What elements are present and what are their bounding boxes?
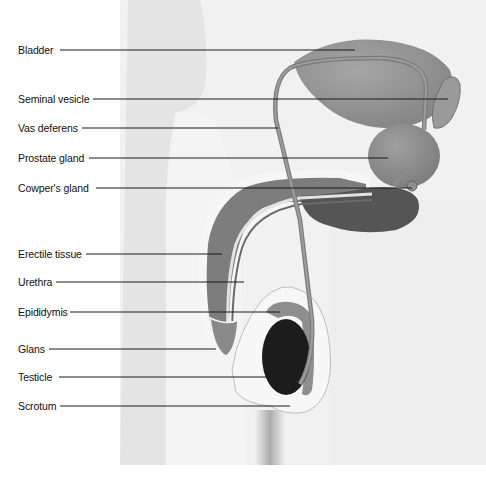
label-urethra: Urethra bbox=[18, 276, 52, 288]
anatomy-diagram: Bladder Seminal vesicle Vas deferens Pro… bbox=[0, 0, 486, 497]
label-glans: Glans bbox=[18, 343, 45, 355]
label-vas-deferens: Vas deferens bbox=[18, 122, 78, 134]
label-scrotum: Scrotum bbox=[18, 400, 56, 412]
label-seminal-vesicle: Seminal vesicle bbox=[18, 93, 89, 105]
label-prostate-gland: Prostate gland bbox=[18, 152, 84, 164]
prostate-shape bbox=[368, 124, 440, 188]
label-bladder: Bladder bbox=[18, 44, 54, 56]
label-epididymis: Epididymis bbox=[18, 306, 68, 318]
label-testicle: Testicle bbox=[18, 371, 52, 383]
label-cowpers-gland: Cowper's gland bbox=[18, 182, 89, 194]
label-erectile-tissue: Erectile tissue bbox=[18, 248, 82, 260]
